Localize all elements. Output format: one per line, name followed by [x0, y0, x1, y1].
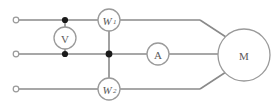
terminal-bottom[interactable]: [13, 86, 19, 92]
wattmeter-one-label: W: [102, 15, 112, 27]
voltmeter-label: V: [61, 33, 69, 45]
wire-top-diagonal-to-motor: [200, 20, 226, 37]
junction-middle-wattmeter: [106, 51, 113, 58]
circuit-diagram: V W 1 W 2 A M: [0, 0, 276, 107]
wattmeter-two-label: W: [102, 84, 112, 96]
wattmeter-two-subscript: 2: [113, 87, 117, 95]
wattmeter-one-subscript: 1: [113, 18, 117, 26]
junction-middle-voltmeter: [62, 51, 68, 57]
ammeter-label: A: [154, 49, 162, 61]
wire-bottom-diagonal-to-motor: [200, 72, 226, 89]
circuit-schematic-canvas: V W 1 W 2 A M: [0, 0, 276, 107]
terminal-middle[interactable]: [13, 51, 19, 57]
motor-label: M: [239, 50, 249, 62]
junction-top-voltmeter: [62, 17, 68, 23]
terminal-top[interactable]: [13, 17, 19, 23]
